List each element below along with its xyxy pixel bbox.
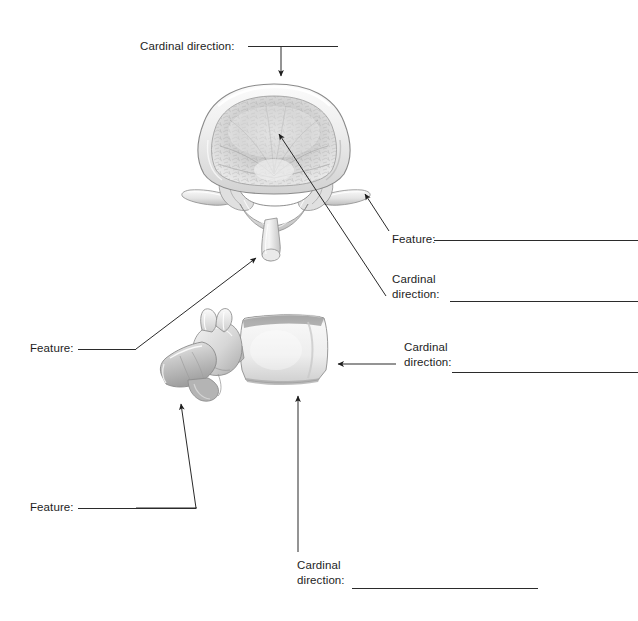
answer-rule-cardinal-direction-inferior-body[interactable] — [352, 588, 538, 589]
lumbar-vertebra-lateral-view — [158, 308, 346, 408]
label-cardinal-direction-inferior-body-line1: Cardinal — [297, 558, 341, 573]
leader-feature-inferior-articular-process — [181, 404, 196, 508]
answer-rule-cardinal-direction-anterior-body[interactable] — [452, 372, 638, 373]
label-cardinal-direction-anterior-body-line2: direction: — [404, 355, 452, 370]
answer-rule-feature-transverse-process[interactable] — [434, 240, 638, 241]
label-feature-transverse-process: Feature: — [392, 232, 436, 246]
answer-rule-feature-spinous-process[interactable] — [78, 349, 136, 350]
lumbar-vertebra-superior-view — [178, 80, 374, 264]
label-feature-spinous-process: Feature: — [30, 341, 74, 355]
answer-rule-feature-inferior-articular-process[interactable] — [78, 508, 196, 509]
label-feature-inferior-articular-process: Feature: — [30, 500, 74, 514]
answer-rule-cardinal-direction-top[interactable] — [248, 46, 338, 47]
label-cardinal-direction-vertebral-body-line2: direction: — [392, 287, 440, 302]
label-cardinal-direction-vertebral-body-line1: Cardinal — [392, 272, 436, 287]
label-cardinal-direction-top: Cardinal direction: — [140, 39, 235, 53]
label-cardinal-direction-anterior-body-line1: Cardinal — [404, 340, 448, 355]
answer-rule-cardinal-direction-vertebral-body[interactable] — [450, 301, 638, 302]
worksheet-canvas: Cardinal direction: Feature: Cardinal di… — [0, 0, 638, 621]
label-cardinal-direction-inferior-body-line2: direction: — [297, 573, 345, 588]
